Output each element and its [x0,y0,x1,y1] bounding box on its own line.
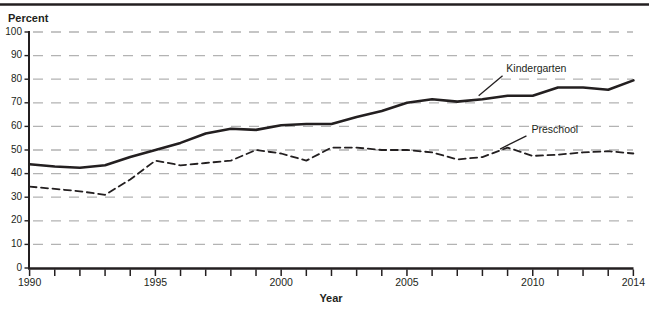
y-tick-label: 90 [11,49,23,60]
x-tick-label: 2000 [269,276,293,288]
y-tick-label: 80 [11,73,23,84]
preschool-line [30,148,634,195]
x-tick-label: 1990 [18,276,42,288]
y-tick-label: 50 [11,144,23,155]
y-tick-label: 70 [11,96,23,107]
annotations: KindergartenPreschool [479,62,579,149]
y-tick-label: 40 [11,167,23,178]
chart-container: 0102030405060708090100199019952000200520… [0,0,649,313]
x-tick-label: 1995 [144,276,168,288]
y-tick-label: 60 [11,120,23,131]
y-tick-label: 20 [11,214,23,225]
x-tick-label: 2010 [521,276,545,288]
data-series [30,80,634,194]
y-axis-title: Percent [8,12,49,24]
x-axis-title: Year [319,292,343,304]
y-tick-label: 100 [5,26,22,37]
enrollment-line-chart: 0102030405060708090100199019952000200520… [0,0,649,313]
x-tick-label: 2005 [395,276,419,288]
x-tick-label: 2014 [622,276,646,288]
y-tick-label: 10 [11,238,23,249]
y-tick-label: 30 [11,191,23,202]
preschool-label: Preschool [531,123,578,135]
kindergarten-label: Kindergarten [506,62,566,74]
y-tick-label: 0 [16,262,22,273]
preschool-pointer-line [500,136,526,149]
